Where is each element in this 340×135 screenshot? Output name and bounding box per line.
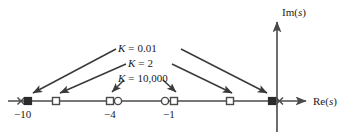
zero-marker-minus1 xyxy=(161,97,168,104)
imag-axis-label-suffix: ) xyxy=(302,6,306,19)
tick-label-minus1: −1 xyxy=(163,108,175,120)
real-axis-label-prefix: Re( xyxy=(313,95,329,108)
imag-axis-label-prefix: Im( xyxy=(282,6,298,19)
tick-label-minus10: −10 xyxy=(14,108,32,120)
root-locus-svg: Re(s) Im(s) −10 −4 −1 xyxy=(0,0,340,135)
gain-value-k001: 0.01 xyxy=(138,42,157,54)
gain-label-k10000: K=10,000 xyxy=(117,72,168,84)
real-axis-label-suffix: ) xyxy=(333,95,337,108)
arrow-k2-right xyxy=(172,64,232,93)
root-marker-k001-right xyxy=(269,98,276,105)
gain-symbol-k10000: K xyxy=(117,72,126,84)
root-marker-k001-left xyxy=(25,98,32,105)
gain-symbol-k001: K xyxy=(117,42,126,54)
gain-value-k10000: 10,000 xyxy=(138,72,169,84)
gain-symbol-k2: K xyxy=(127,57,136,69)
real-axis-label: Re(s) xyxy=(313,95,337,108)
imaginary-axis-label: Im(s) xyxy=(282,6,306,19)
root-locus-figure: Re(s) Im(s) −10 −4 −1 xyxy=(0,0,340,135)
root-marker-k10000-left xyxy=(107,98,114,105)
zero-marker-minus4 xyxy=(114,97,121,104)
gain-value-k2: 2 xyxy=(148,57,154,69)
gain-equals-k10000: = xyxy=(128,72,134,84)
gain-label-k2: K=2 xyxy=(127,57,153,69)
gain-label-k001: K=0.01 xyxy=(117,42,157,54)
root-marker-k10000-right xyxy=(171,98,178,105)
arrow-k001-right xyxy=(181,49,267,93)
root-marker-k2-left xyxy=(53,98,60,105)
root-marker-k2-right xyxy=(227,98,234,105)
tick-label-minus4: −4 xyxy=(104,108,116,120)
gain-equals-k001: = xyxy=(128,42,134,54)
gain-equals-k2: = xyxy=(138,57,144,69)
